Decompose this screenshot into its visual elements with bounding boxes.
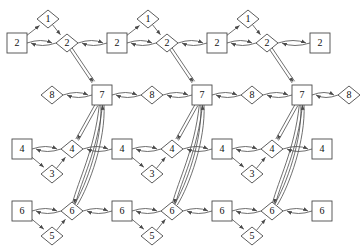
- edge-trans8b-to-place7a: [116, 95, 141, 98]
- edge-trans2c-to-place2d: [278, 41, 306, 44]
- node-diamond-6-d6c[interactable]: 6: [261, 202, 283, 220]
- node-square-6-q6d[interactable]: 6: [312, 201, 332, 221]
- node-label: 3: [50, 168, 55, 179]
- edge-trans2c-to-place7c: [270, 50, 292, 83]
- edge-trans3a-to-trans4a: [56, 157, 65, 168]
- node-square-6-q6c[interactable]: 6: [212, 201, 232, 221]
- edge-trans5b-to-trans6b: [156, 219, 165, 230]
- node-square-7-q7c[interactable]: 7: [292, 85, 312, 105]
- node-square-2-q2d[interactable]: 2: [310, 33, 330, 53]
- node-label: 4: [170, 143, 175, 154]
- node-label: 2: [65, 37, 70, 48]
- node-label: 8: [150, 89, 155, 100]
- node-diamond-2-d2c[interactable]: 2: [256, 34, 278, 52]
- edge-trans2a-to-place2b: [78, 41, 103, 44]
- edge-trans8d-to-place7c: [316, 95, 338, 98]
- node-square-2-q2c[interactable]: 2: [207, 33, 227, 53]
- node-square-6-q6b[interactable]: 6: [112, 201, 132, 221]
- edge-trans2b-to-place7b-head: [171, 49, 193, 82]
- node-diamond-4-d4c[interactable]: 4: [261, 140, 283, 158]
- diagram-canvas: 1221221222878787844344344346656656656: [0, 0, 364, 250]
- petri-net-graph: 1221221222878787844344344346656656656: [0, 0, 364, 250]
- edge-place6a-to-trans6a: [32, 209, 57, 212]
- edge-place7b-to-trans4b: [176, 104, 195, 139]
- node-diamond-2-d2b[interactable]: 2: [156, 34, 178, 52]
- edge-trans1b-to-trans2b: [152, 24, 160, 34]
- node-label: 2: [318, 37, 323, 48]
- node-label: 6: [320, 205, 325, 216]
- node-diamond-3-s3c[interactable]: 3: [241, 165, 263, 183]
- node-diamond-6-d6a[interactable]: 6: [61, 202, 83, 220]
- node-diamond-3-s3a[interactable]: 3: [41, 165, 63, 183]
- node-label: 5: [250, 230, 255, 241]
- edge-trans3b-to-trans4b: [156, 157, 165, 168]
- node-diamond-5-s5c[interactable]: 5: [241, 227, 263, 245]
- node-diamond-8-d8b[interactable]: 8: [141, 86, 163, 104]
- edge-trans4b-to-place4b: [136, 149, 161, 152]
- node-label: 6: [170, 205, 175, 216]
- node-label: 2: [15, 37, 20, 48]
- node-square-7-q7a[interactable]: 7: [92, 85, 112, 105]
- node-diamond-5-s5a[interactable]: 5: [41, 227, 63, 245]
- edge-trans5c-to-trans6c: [256, 219, 265, 230]
- edge-place7c-to-trans4c: [276, 104, 295, 139]
- node-label: 8: [347, 89, 352, 100]
- edge-trans5a-to-trans6a: [56, 219, 65, 230]
- edge-trans2b-to-place7b: [172, 48, 194, 81]
- edge-trans2b-to-place2c: [178, 41, 203, 44]
- edge-trans1a-to-trans2a: [52, 24, 60, 34]
- edge-trans2b-to-place2b: [131, 43, 156, 46]
- node-label: 6: [20, 205, 25, 216]
- node-diamond-4-d4a[interactable]: 4: [61, 140, 83, 158]
- node-label: 6: [120, 205, 125, 216]
- edge-place2b-to-trans2a: [82, 43, 107, 46]
- node-diamond-1-s2b[interactable]: 1: [137, 10, 159, 28]
- node-diamond-1-s2c[interactable]: 1: [237, 10, 259, 28]
- node-diamond-6-d6b[interactable]: 6: [161, 202, 183, 220]
- node-label: 7: [100, 89, 105, 100]
- node-square-6-q6a[interactable]: 6: [12, 201, 32, 221]
- node-diamond-8-d8d[interactable]: 8: [338, 86, 360, 104]
- node-label: 3: [150, 168, 155, 179]
- node-diamond-8-d8a[interactable]: 8: [41, 86, 63, 104]
- edge-trans2c-to-place2c: [231, 43, 256, 46]
- node-square-4-q4d[interactable]: 4: [312, 139, 332, 159]
- node-label: 3: [250, 168, 255, 179]
- node-label: 4: [20, 143, 25, 154]
- node-diamond-1-s2a[interactable]: 1: [37, 10, 59, 28]
- node-diamond-4-d4b[interactable]: 4: [161, 140, 183, 158]
- node-diamond-5-s5b[interactable]: 5: [141, 227, 163, 245]
- edge-place4b-to-trans4b: [132, 147, 157, 150]
- edge-trans6b-to-place6b: [136, 211, 161, 214]
- node-diamond-2-d2a[interactable]: 2: [56, 34, 78, 52]
- node-square-4-q4b[interactable]: 4: [112, 139, 132, 159]
- edge-place7a-to-trans4a: [78, 106, 97, 141]
- node-label: 8: [50, 89, 55, 100]
- edge-place7c-to-trans4c: [278, 106, 297, 141]
- edge-place7b-to-trans4b-head: [177, 105, 196, 140]
- node-label: 5: [50, 230, 55, 241]
- edge-trans2c-to-place7c: [272, 48, 294, 81]
- node-square-2-q2a[interactable]: 2: [7, 33, 27, 53]
- node-diamond-3-s3b[interactable]: 3: [141, 165, 163, 183]
- node-label: 1: [46, 13, 51, 24]
- edge-trans8c-to-place7b: [216, 95, 241, 98]
- edge-place6a-to-trans5a: [32, 219, 44, 229]
- edge-place2a-to-trans1a: [27, 26, 40, 36]
- node-label: 4: [70, 143, 75, 154]
- node-square-7-q7b[interactable]: 7: [192, 85, 212, 105]
- node-square-4-q4c[interactable]: 4: [212, 139, 232, 159]
- edge-place7b-to-trans8b: [167, 95, 192, 98]
- edge-place2b-to-trans1b: [127, 26, 140, 36]
- node-label: 2: [165, 37, 170, 48]
- node-label: 1: [246, 13, 251, 24]
- edge-trans2a-to-place2a: [31, 43, 56, 46]
- edge-place6b-to-trans6b: [132, 209, 157, 212]
- edge-place7c-to-trans8c: [267, 95, 292, 98]
- node-diamond-8-d8c[interactable]: 8: [241, 86, 263, 104]
- node-label: 7: [200, 89, 205, 100]
- node-square-2-q2b[interactable]: 2: [107, 33, 127, 53]
- edge-place4a-to-trans4a: [32, 147, 57, 150]
- node-square-4-q4a[interactable]: 4: [12, 139, 32, 159]
- edge-place2c-to-trans2b: [182, 43, 207, 46]
